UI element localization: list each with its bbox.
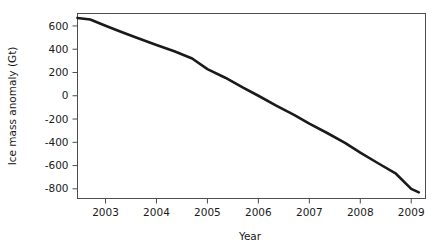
y-tick-label: 0 [62,89,69,101]
x-tick-label: 2003 [92,206,119,218]
y-tick-label: -400 [45,136,69,148]
y-tick-label: -600 [45,159,69,171]
x-tick-label: 2009 [398,206,425,218]
x-tick-label: 2008 [347,206,374,218]
y-tick-label: 400 [48,43,68,55]
y-tick-label: 200 [48,66,68,78]
x-tick-label: 2006 [245,206,272,218]
x-tick-label: 2004 [143,206,170,218]
x-axis-title: Year [238,230,262,242]
y-axis-title: Ice mass anomaly (Gt) [6,47,18,166]
x-tick-label: 2005 [194,206,221,218]
y-tick-label: -200 [45,113,69,125]
x-tick-label: 2007 [296,206,323,218]
y-tick-label: -800 [45,182,69,194]
chart-figure: 6004002000-200-400-600-800 2003200420052… [0,0,448,249]
y-tick-label: 600 [48,20,68,32]
line-chart: 6004002000-200-400-600-800 2003200420052… [0,0,448,249]
